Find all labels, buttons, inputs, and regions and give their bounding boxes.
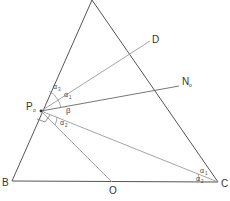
segment-p0-n0 xyxy=(41,86,179,111)
label-p0: P xyxy=(26,101,33,112)
label-n0-sub: o xyxy=(189,82,192,88)
label-alpha2-sub: 2 xyxy=(65,123,68,128)
label-o: O xyxy=(109,185,117,196)
label-c: C xyxy=(221,178,228,189)
label-alpha3-sub: 3 xyxy=(58,87,61,92)
side-ac xyxy=(92,0,218,182)
label-beta: β xyxy=(66,106,71,115)
label-c-alpha1: α xyxy=(200,167,204,174)
label-c-alpha2: α xyxy=(196,175,200,182)
arc-alpha2 xyxy=(55,117,57,125)
label-c-alpha1-sub: 1 xyxy=(205,171,208,176)
segment-p0-d xyxy=(41,41,150,111)
segment-p0-c xyxy=(41,111,218,182)
label-alpha1: α xyxy=(64,91,68,98)
label-alpha2: α xyxy=(60,119,64,126)
point-p0 xyxy=(40,110,43,113)
side-ab xyxy=(12,0,92,181)
side-bc xyxy=(12,181,218,182)
arc-alpha3 xyxy=(49,91,58,100)
segment-p0-o xyxy=(41,111,112,182)
label-b: B xyxy=(2,177,9,188)
label-alpha3: α xyxy=(53,83,57,90)
arc-alpha1 xyxy=(58,100,61,108)
label-alpha1-sub: 1 xyxy=(69,95,72,100)
label-p0-sub: o xyxy=(33,107,36,113)
triangle-diagram: B C D O P o N o α 3 α 1 β α 2 α 1 α 2 xyxy=(0,0,230,201)
label-d: D xyxy=(152,34,159,45)
